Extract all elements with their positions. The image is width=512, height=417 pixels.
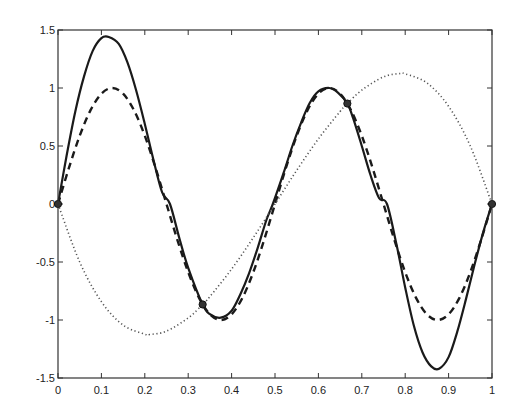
- x-tick-label: 0: [55, 384, 61, 396]
- y-tick-label: -1.5: [36, 372, 55, 384]
- x-tick-label: 0.2: [137, 384, 152, 396]
- y-tick-label: 1: [49, 82, 55, 94]
- x-tick-label: 1: [489, 384, 495, 396]
- y-tick-label: 0.5: [40, 140, 55, 152]
- x-tick-label: 0.8: [398, 384, 413, 396]
- y-tick-label: -1: [45, 314, 55, 326]
- node-marker: [344, 100, 351, 107]
- line-chart: 00.10.20.30.40.50.60.70.80.91 -1.5-1-0.5…: [0, 0, 512, 417]
- x-tick-label: 0.7: [354, 384, 369, 396]
- x-tick-label: 0.9: [441, 384, 456, 396]
- x-tick-label: 0.4: [224, 384, 239, 396]
- x-tick-label: 0.1: [94, 384, 109, 396]
- node-marker: [199, 301, 206, 308]
- x-tick-label: 0.6: [311, 384, 326, 396]
- x-tick-label: 0.3: [181, 384, 196, 396]
- y-tick-label: -0.5: [36, 256, 55, 268]
- y-tick-label: 1.5: [40, 24, 55, 36]
- x-tick-label: 0.5: [267, 384, 282, 396]
